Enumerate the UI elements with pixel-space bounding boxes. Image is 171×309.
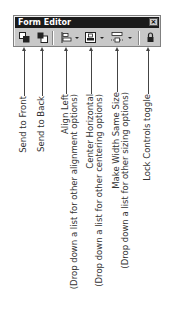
callout-arrow: [117, 50, 118, 92]
center-dropdown-arrow[interactable]: [100, 37, 104, 39]
title-bar[interactable]: Form Editor ×: [15, 17, 159, 28]
lock-icon[interactable]: [145, 32, 156, 43]
callout-arrow: [42, 50, 43, 96]
callout-arrow: [66, 50, 67, 94]
make-width-same-size-icon[interactable]: [111, 32, 124, 43]
callout-center-horizontal: Center Horizontal (Drop down a list for …: [86, 94, 104, 300]
window-title: Form Editor: [18, 18, 71, 27]
separator: [138, 31, 139, 45]
callout-lock-controls: Lock Controls toggle: [143, 94, 152, 300]
callout-align-left: Align Left (Drop down a list for other a…: [61, 94, 79, 300]
callout-send-to-front: Send to Front: [19, 96, 28, 300]
close-button[interactable]: ×: [149, 18, 158, 26]
form-editor-toolbar-window: Form Editor ×: [13, 15, 161, 47]
send-to-front-icon[interactable]: [19, 32, 30, 43]
align-dropdown-arrow[interactable]: [75, 37, 79, 39]
align-left-icon[interactable]: [61, 32, 72, 43]
callout-send-to-back: Send to Back: [37, 96, 46, 300]
send-to-back-icon[interactable]: [37, 32, 48, 43]
separator: [52, 31, 53, 45]
callout-arrow: [91, 50, 92, 94]
size-dropdown-arrow[interactable]: [128, 37, 132, 39]
callout-arrow: [24, 50, 25, 96]
callout-make-width-same-size: Make Width Same Size (Drop down a list f…: [112, 92, 130, 300]
toolbar: [14, 29, 160, 47]
callout-arrow: [148, 50, 149, 94]
center-horizontal-icon[interactable]: [85, 32, 96, 43]
